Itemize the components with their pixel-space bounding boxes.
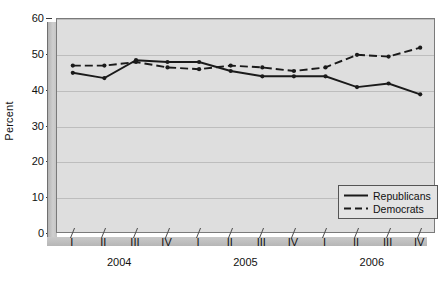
legend-swatch-dashed xyxy=(343,204,369,213)
y-tick-label: 20 xyxy=(18,156,44,167)
data-point xyxy=(165,65,169,69)
legend-item-democrats: Democrats xyxy=(343,202,433,215)
x-tick-label: I xyxy=(183,236,213,248)
legend-label-republicans: Republicans xyxy=(373,190,431,202)
data-point xyxy=(323,74,327,78)
data-point xyxy=(197,67,201,71)
x-tick-label: IV xyxy=(278,236,308,248)
data-point xyxy=(229,69,233,73)
y-tick-label: 0 xyxy=(18,228,44,239)
y-tick-label: 50 xyxy=(18,49,44,60)
y-tick-label: 40 xyxy=(18,85,44,96)
series-line-republicans xyxy=(73,60,420,94)
x-tick-label: III xyxy=(246,236,276,248)
x-tick-label: IV xyxy=(404,236,434,248)
data-point xyxy=(71,64,75,68)
data-point xyxy=(355,53,359,57)
x-tick-label: II xyxy=(341,236,371,248)
data-point xyxy=(260,65,264,69)
y-tick-label: 30 xyxy=(18,121,44,132)
data-point xyxy=(197,60,201,64)
legend: Republicans Democrats xyxy=(338,185,438,219)
x-tick-label: I xyxy=(57,236,87,248)
data-point xyxy=(134,60,138,64)
data-point xyxy=(387,55,391,59)
x-group-label: 2006 xyxy=(337,256,407,268)
x-tick-label: II xyxy=(215,236,245,248)
y-axis-title: Percent xyxy=(3,91,15,151)
data-point xyxy=(71,71,75,75)
data-point xyxy=(418,46,422,50)
data-point xyxy=(292,74,296,78)
y-tick-mark xyxy=(46,18,52,19)
data-point xyxy=(260,74,264,78)
x-tick-label: IV xyxy=(152,236,182,248)
x-tick-label: I xyxy=(309,236,339,248)
figure-caption xyxy=(0,283,448,291)
chart-figure: Percent 0102030405060 IIIIIIIVIIIIIIIVII… xyxy=(0,0,448,291)
data-point xyxy=(418,92,422,96)
data-point xyxy=(102,64,106,68)
data-point xyxy=(355,85,359,89)
x-tick-label: III xyxy=(120,236,150,248)
legend-item-republicans: Republicans xyxy=(343,189,433,202)
data-point xyxy=(102,76,106,80)
data-point xyxy=(165,60,169,64)
x-tick-label: III xyxy=(373,236,403,248)
y-tick-label: 60 xyxy=(18,13,44,24)
data-point xyxy=(323,65,327,69)
data-point xyxy=(292,69,296,73)
x-tick-label: II xyxy=(88,236,118,248)
data-point xyxy=(229,64,233,68)
x-group-label: 2005 xyxy=(211,256,281,268)
y-tick-label: 10 xyxy=(18,192,44,203)
x-group-label: 2004 xyxy=(84,256,154,268)
legend-label-democrats: Democrats xyxy=(373,203,424,215)
legend-swatch-solid xyxy=(343,191,369,200)
data-point xyxy=(387,81,391,85)
